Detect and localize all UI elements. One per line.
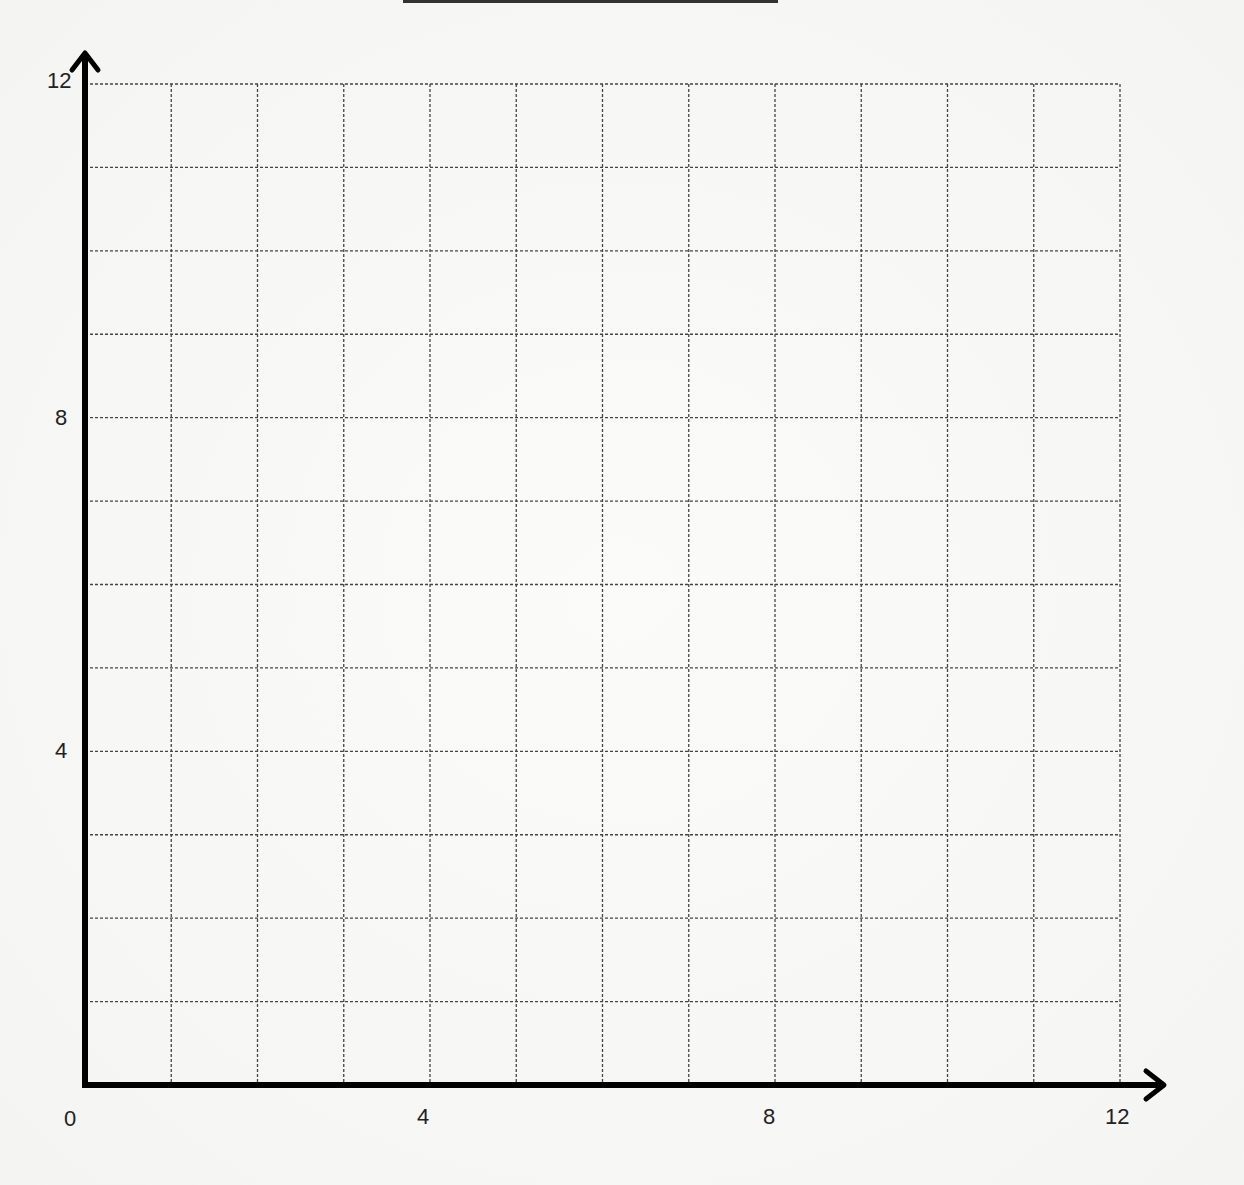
y-tick-label-8: 8 [55,407,67,429]
axes [72,53,1164,1099]
y-tick-label-4: 4 [55,740,67,762]
origin-label: 0 [64,1108,76,1130]
coordinate-grid [0,0,1244,1185]
x-tick-label-12: 12 [1105,1106,1129,1128]
grid-lines [85,84,1120,1085]
x-tick-label-4: 4 [417,1106,429,1128]
x-tick-label-8: 8 [763,1106,775,1128]
worksheet-page: 0 4 8 12 4 8 12 [0,0,1244,1185]
y-tick-label-12: 12 [47,70,71,92]
